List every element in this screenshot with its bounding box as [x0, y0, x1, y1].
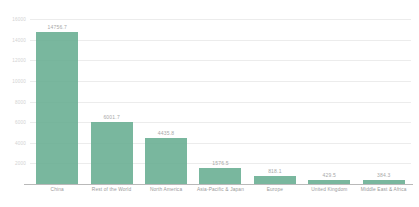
bar-value-label: 384.3: [377, 172, 391, 178]
bar-value-label: 818.1: [268, 168, 282, 174]
bar[interactable]: [91, 122, 133, 184]
bar-value-label: 1576.5: [212, 160, 229, 166]
bar-slot: 384.3: [357, 19, 411, 184]
bar-value-label: 14756.7: [47, 24, 66, 30]
y-axis-tick-label: 2000: [15, 161, 26, 166]
bar-value-label: 4435.8: [158, 130, 175, 136]
y-axis-tick-label: 16000: [12, 17, 26, 22]
x-axis-category-label: United Kingdom: [302, 187, 356, 192]
bar-value-label: 6001.7: [103, 114, 120, 120]
bar-slot: 4435.8: [139, 19, 193, 184]
y-axis-tick-label: 12000: [12, 58, 26, 63]
bar-chart: 200040006000800010000120001400016000 147…: [0, 0, 419, 207]
bar-slot: 818.1: [248, 19, 302, 184]
bar-slot: 429.5: [302, 19, 356, 184]
y-axis-tick-label: 4000: [15, 140, 26, 145]
bar[interactable]: [145, 138, 187, 184]
x-axis-category-label: North America: [139, 187, 193, 192]
x-axis-category-label: Middle East & Africa: [357, 187, 411, 192]
y-axis-tick-label: 6000: [15, 120, 26, 125]
x-axis-labels: ChinaRest of the WorldNorth AmericaAsia-…: [30, 187, 411, 192]
bar[interactable]: [199, 168, 241, 184]
x-axis-line: [24, 184, 413, 185]
x-axis-category-label: Rest of the World: [84, 187, 138, 192]
bar-slot: 1576.5: [193, 19, 247, 184]
y-axis-tick-label: 14000: [12, 37, 26, 42]
bar-slot: 14756.7: [30, 19, 84, 184]
plot-area: 200040006000800010000120001400016000 147…: [30, 19, 411, 184]
x-axis-category-label: Europe: [248, 187, 302, 192]
bar-value-label: 429.5: [323, 172, 337, 178]
bar[interactable]: [254, 176, 296, 184]
bar-slot: 6001.7: [84, 19, 138, 184]
y-axis-tick-label: 8000: [15, 99, 26, 104]
x-axis-category-label: China: [30, 187, 84, 192]
x-axis-category-label: Asia-Pacific & Japan: [193, 187, 247, 192]
bar-series: 14756.76001.74435.81576.5818.1429.5384.3: [30, 19, 411, 184]
y-axis-tick-label: 10000: [12, 78, 26, 83]
bar[interactable]: [36, 32, 78, 184]
